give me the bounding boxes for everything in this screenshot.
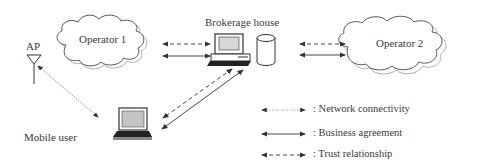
brokerage-label: Brokerage house <box>205 16 279 28</box>
operator1-label: Operator 1 <box>79 33 126 45</box>
legend-trust-label: : Trust relationship <box>313 148 392 159</box>
ap-label: AP <box>26 40 40 52</box>
edge-network-ap-mobile <box>38 66 98 117</box>
edge-business-brokerage-mobile <box>162 70 243 129</box>
antenna-icon <box>27 55 41 84</box>
legend-business-label: : Business agreement <box>313 127 402 138</box>
database-cylinder-icon <box>257 35 275 66</box>
mobile-user-label: Mobile user <box>24 131 77 143</box>
laptop-icon <box>113 108 152 140</box>
desktop-computer-icon <box>207 34 251 66</box>
operator2-label: Operator 2 <box>376 37 423 49</box>
edge-trust-brokerage-mobile <box>163 69 232 118</box>
legend-network-label: : Network connectivity <box>313 103 410 114</box>
